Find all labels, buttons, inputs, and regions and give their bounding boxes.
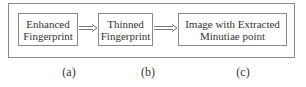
arrow-right-icon xyxy=(154,24,178,32)
node-c-line2: Minutiae point xyxy=(185,30,280,42)
node-b-line2: Fingerprint xyxy=(101,30,151,42)
node-b-line1: Thinned xyxy=(101,18,151,30)
node-c-line1: Image with Extracted xyxy=(185,18,280,30)
node-thinned-fingerprint: Thinned Fingerprint xyxy=(98,13,153,46)
caption-c: (c) xyxy=(228,65,258,80)
node-a-line1: Enhanced xyxy=(23,18,73,30)
caption-a: (a) xyxy=(54,65,84,80)
node-extracted-minutiae: Image with Extracted Minutiae point xyxy=(178,13,287,46)
arrow-right-icon xyxy=(79,24,98,32)
node-enhanced-fingerprint: Enhanced Fingerprint xyxy=(18,13,78,46)
node-a-line2: Fingerprint xyxy=(23,30,73,42)
caption-b: (b) xyxy=(133,65,163,80)
